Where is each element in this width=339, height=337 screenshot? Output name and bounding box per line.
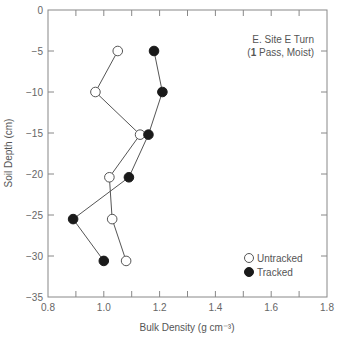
legend-tracked-label: Tracked xyxy=(257,267,293,278)
x-tick-label: 0.8 xyxy=(41,302,55,313)
data-point-tracked xyxy=(144,130,154,140)
data-point-tracked xyxy=(149,46,159,56)
data-point-untracked xyxy=(121,256,131,266)
legend-untracked-marker xyxy=(245,254,254,263)
legend-tracked-marker xyxy=(245,268,254,277)
annotation-line-1: E. Site E Turn xyxy=(252,34,314,45)
y-tick-label: −35 xyxy=(26,292,43,303)
legend-untracked-label: Untracked xyxy=(257,253,303,264)
y-axis-title: Soil Depth (cm) xyxy=(3,119,14,188)
data-point-tracked xyxy=(68,214,78,224)
y-tick-label: 0 xyxy=(37,5,43,16)
y-tick-label: −20 xyxy=(26,169,43,180)
y-tick-label: −5 xyxy=(32,46,44,57)
series-line-tracked xyxy=(73,51,162,261)
data-point-tracked xyxy=(99,256,109,266)
bulk-density-chart: 0.81.01.21.41.61.80−5−10−15−20−25−30−35 … xyxy=(0,0,339,337)
series-layer xyxy=(68,46,167,266)
data-point-tracked xyxy=(124,172,134,182)
x-tick-label: 1.6 xyxy=(264,302,278,313)
x-tick-label: 1.2 xyxy=(153,302,167,313)
annotation-line-2: (1 Pass, Moist) xyxy=(247,47,314,58)
data-point-untracked xyxy=(91,87,101,97)
annotation: E. Site E Turn (1 Pass, Moist) xyxy=(247,34,314,58)
y-tick-label: −15 xyxy=(26,128,43,139)
data-point-untracked xyxy=(105,172,115,182)
data-point-tracked xyxy=(158,87,168,97)
x-tick-label: 1.8 xyxy=(320,302,334,313)
y-tick-label: −10 xyxy=(26,87,43,98)
data-point-untracked xyxy=(113,46,123,56)
data-point-untracked xyxy=(107,214,117,224)
y-tick-label: −30 xyxy=(26,251,43,262)
y-tick-label: −25 xyxy=(26,210,43,221)
series-line-untracked xyxy=(95,51,140,261)
x-tick-label: 1.0 xyxy=(97,302,111,313)
x-tick-label: 1.4 xyxy=(208,302,222,313)
legend: Untracked Tracked xyxy=(245,253,303,278)
x-axis-title: Bulk Density (g cm⁻³) xyxy=(139,322,234,333)
